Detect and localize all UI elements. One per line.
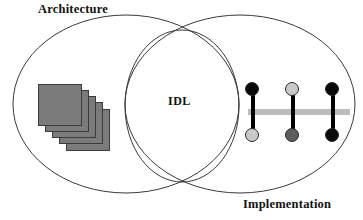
implementation-label: Implementation bbox=[243, 197, 331, 212]
dumbbell-1 bbox=[245, 82, 261, 142]
node-top bbox=[245, 82, 259, 96]
node-bottom bbox=[325, 128, 339, 142]
venn-diagram-canvas: Architecture Implementation IDL bbox=[0, 0, 363, 220]
node-bottom bbox=[245, 128, 259, 142]
idl-label: IDL bbox=[168, 94, 191, 109]
dumbbell-3 bbox=[325, 82, 341, 142]
layer-card bbox=[38, 84, 82, 126]
connector-nodes-icon bbox=[243, 82, 353, 144]
node-bottom bbox=[285, 128, 299, 142]
node-top bbox=[285, 82, 299, 96]
stacked-layers-icon bbox=[38, 84, 120, 158]
dumbbell-2 bbox=[285, 82, 301, 142]
node-top bbox=[325, 82, 339, 96]
architecture-label: Architecture bbox=[38, 2, 108, 17]
